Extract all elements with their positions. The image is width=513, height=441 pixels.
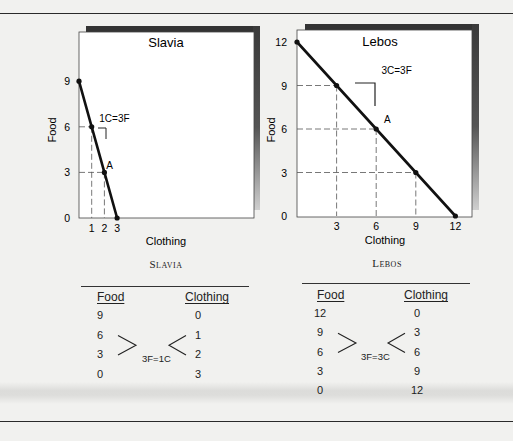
- tradeoff-brackets: [0, 0, 513, 441]
- greater-than-bracket-icon: [338, 333, 356, 352]
- less-than-bracket-icon: [388, 333, 405, 352]
